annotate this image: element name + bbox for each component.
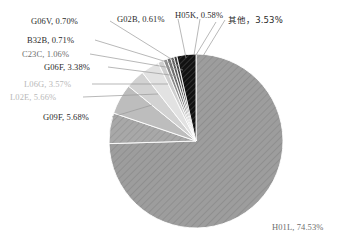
pie-label-h01l: H01L, 74.53%: [272, 222, 324, 232]
chart-canvas: H01L, 74.53%G09F, 5.68%L02E, 5.66%L06G, …: [0, 0, 360, 252]
pie-label-g02b: G02B, 0.61%: [117, 14, 165, 24]
pie-label-l06g: L06G, 3.57%: [24, 79, 71, 89]
leader-line-g02b: [178, 19, 186, 58]
pie-label-c23c: C23C, 1.06%: [22, 49, 69, 59]
pie-label-l02e: L02E, 5.66%: [10, 92, 56, 102]
pie-label-b32b: B32B, 0.71%: [27, 35, 74, 45]
pie-label-g06v: G06V, 0.70%: [31, 16, 78, 26]
pie-slice-group: [109, 54, 283, 228]
pie-label-h05k: H05K, 0.58%: [175, 10, 223, 20]
pie-label-others: 其他，3.53%: [228, 15, 283, 25]
leader-line-g06v: [110, 21, 176, 62]
pie-label-g09f: G09F, 5.68%: [43, 112, 89, 122]
pie-label-g06f: G06F, 3.38%: [44, 62, 90, 72]
